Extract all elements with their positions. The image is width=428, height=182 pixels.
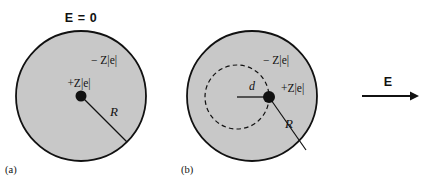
panel-a: E = 0 − Z|e| +Z|e| R (a) xyxy=(5,11,146,176)
panel-b-radius-label: R xyxy=(284,116,293,131)
panel-b-nucleus-dot xyxy=(263,91,275,103)
panel-b-positive-charge-label: +Z|e| xyxy=(281,82,304,95)
panel-b-tag: (b) xyxy=(181,164,194,176)
panel-b-negative-charge-label: − Z|e| xyxy=(263,54,289,67)
panel-a-positive-charge-label: +Z|e| xyxy=(67,77,90,90)
panel-a-negative-charge-label: − Z|e| xyxy=(91,54,117,67)
panel-a-tag: (a) xyxy=(5,164,17,176)
panel-b-sphere xyxy=(187,31,317,161)
panel-b: − Z|e| d +Z|e| R (b) xyxy=(181,31,317,176)
electric-field-sphere-figure: E = 0 − Z|e| +Z|e| R (a) − Z|e| xyxy=(0,0,428,182)
panel-a-radius-label: R xyxy=(109,104,118,119)
panel-a-nucleus-dot xyxy=(76,91,87,102)
figure-canvas: E = 0 − Z|e| +Z|e| R (a) − Z|e| xyxy=(0,0,428,182)
external-field-arrow-head xyxy=(410,92,419,101)
external-field-arrow-group: E xyxy=(362,75,419,101)
external-field-label: E xyxy=(384,75,392,89)
panel-b-displacement-label: d xyxy=(249,79,256,93)
panel-a-field-label: E = 0 xyxy=(65,11,98,25)
